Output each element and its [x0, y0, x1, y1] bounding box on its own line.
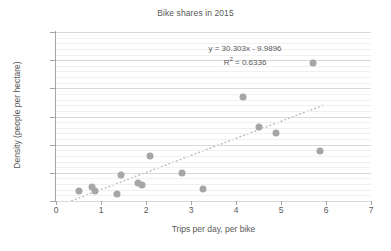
y-tick-mark	[50, 201, 55, 202]
x-tick-label: 7	[361, 205, 381, 215]
gridline-major	[56, 88, 371, 89]
x-tick-mark	[371, 201, 372, 205]
gridline-minor	[56, 83, 371, 84]
trendline-path	[72, 105, 324, 201]
gridline-minor	[56, 105, 371, 106]
data-point	[76, 187, 83, 194]
x-tick-label: 4	[226, 205, 246, 215]
gridline-minor	[56, 150, 371, 151]
x-tick-label: 1	[91, 205, 111, 215]
data-point	[146, 153, 153, 160]
data-point	[139, 182, 146, 189]
scatter-chart: Bike shares in 2015 Density (people per …	[0, 0, 391, 251]
gridline-minor	[56, 139, 371, 140]
gridline-minor	[56, 100, 371, 101]
data-point	[317, 147, 324, 154]
chart-title: Bike shares in 2015	[0, 8, 391, 18]
regression-equation: y = 30.303x - 9.9896	[170, 43, 320, 54]
data-point	[91, 187, 98, 194]
gridline-major	[56, 201, 371, 202]
gridline-minor	[56, 195, 371, 196]
gridline-minor	[56, 133, 371, 134]
gridline-minor	[56, 184, 371, 185]
x-tick-mark	[56, 201, 57, 205]
gridline-major	[56, 173, 371, 174]
x-tick-label: 5	[271, 205, 291, 215]
x-tick-mark	[146, 201, 147, 205]
y-tick-mark	[50, 32, 55, 33]
r-squared-line: R2 = 0.6336	[170, 54, 320, 68]
y-tick-mark	[50, 117, 55, 118]
x-tick-mark	[191, 201, 192, 205]
gridline-minor	[56, 162, 371, 163]
gridline-minor	[56, 156, 371, 157]
y-axis-title: Density (people per hectare)	[12, 35, 22, 195]
y-tick-mark	[50, 173, 55, 174]
x-tick-label: 6	[316, 205, 336, 215]
x-tick-mark	[281, 201, 282, 205]
data-point	[179, 169, 186, 176]
gridline-major	[56, 32, 371, 33]
gridline-major	[56, 117, 371, 118]
gridline-minor	[56, 190, 371, 191]
x-axis-title: Trips per day, per bike	[56, 224, 371, 234]
gridline-minor	[56, 128, 371, 129]
data-point	[272, 129, 279, 136]
x-tick-mark	[236, 201, 237, 205]
gridline-minor	[56, 178, 371, 179]
gridline-minor	[56, 122, 371, 123]
gridline-minor	[56, 111, 371, 112]
r-squared-value: = 0.6336	[233, 58, 267, 67]
gridline-minor	[56, 71, 371, 72]
data-point	[199, 185, 206, 192]
data-point	[118, 172, 125, 179]
x-tick-mark	[101, 201, 102, 205]
data-point	[256, 123, 263, 130]
gridline-minor	[56, 167, 371, 168]
x-tick-label: 0	[46, 205, 66, 215]
gridline-major	[56, 145, 371, 146]
y-tick-mark	[50, 145, 55, 146]
data-point	[239, 93, 246, 100]
data-point	[114, 191, 121, 198]
regression-annotation: y = 30.303x - 9.9896 R2 = 0.6336	[170, 43, 320, 68]
gridline-minor	[56, 38, 371, 39]
x-tick-label: 3	[181, 205, 201, 215]
x-tick-label: 2	[136, 205, 156, 215]
y-tick-mark	[50, 60, 55, 61]
gridline-minor	[56, 94, 371, 95]
x-tick-mark	[326, 201, 327, 205]
y-tick-mark	[50, 88, 55, 89]
gridline-minor	[56, 77, 371, 78]
